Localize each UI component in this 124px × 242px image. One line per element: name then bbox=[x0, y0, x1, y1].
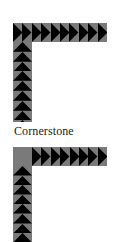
right-triangle-icon bbox=[98, 147, 107, 166]
up-triangle-icon bbox=[13, 91, 32, 101]
up-triangle-icon bbox=[13, 120, 32, 122]
right-triangle-icon bbox=[51, 23, 60, 42]
up-triangle-icon bbox=[13, 195, 32, 205]
up-triangle-icon bbox=[13, 101, 32, 111]
right-triangle-icon bbox=[51, 147, 60, 166]
right-triangle-icon bbox=[60, 147, 69, 166]
right-triangle-icon bbox=[79, 23, 88, 42]
right-triangle-icon bbox=[13, 23, 22, 42]
right-triangle-icon bbox=[98, 23, 107, 42]
up-triangle-icon bbox=[13, 214, 32, 224]
right-triangle-icon bbox=[69, 23, 78, 42]
right-triangle-icon bbox=[32, 147, 41, 166]
right-triangle-icon bbox=[60, 23, 69, 42]
right-triangle-icon bbox=[41, 147, 50, 166]
top-horizontal-border bbox=[13, 23, 107, 42]
right-triangle-icon bbox=[88, 147, 97, 166]
right-triangle-icon bbox=[70, 147, 79, 166]
up-triangle-icon bbox=[13, 224, 32, 234]
up-triangle-icon bbox=[13, 81, 32, 91]
right-triangle-icon bbox=[32, 23, 41, 42]
right-triangle-icon bbox=[79, 147, 88, 166]
up-triangle-icon bbox=[13, 111, 32, 121]
up-triangle-icon bbox=[13, 204, 32, 214]
up-triangle-icon bbox=[13, 166, 32, 176]
up-triangle-icon bbox=[13, 42, 32, 52]
cornerstone-horizontal-border bbox=[13, 147, 107, 166]
up-triangle-icon bbox=[13, 185, 32, 195]
up-triangle-icon bbox=[13, 176, 32, 186]
up-triangle-icon bbox=[13, 52, 32, 62]
right-triangle-icon bbox=[41, 23, 50, 42]
up-triangle-icon bbox=[13, 71, 32, 81]
right-triangle-icon bbox=[88, 23, 97, 42]
right-triangle-icon bbox=[22, 23, 31, 42]
up-triangle-icon bbox=[13, 62, 32, 72]
cornerstone-caption: Cornerstone bbox=[14, 124, 74, 139]
cornerstone-square bbox=[13, 147, 32, 166]
cornerstone-vertical-border bbox=[13, 166, 32, 242]
up-triangle-icon bbox=[13, 233, 32, 242]
top-vertical-border bbox=[13, 42, 32, 122]
